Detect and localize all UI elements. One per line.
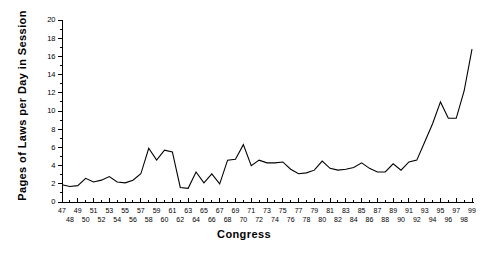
x-tick-label: 48 (66, 216, 74, 223)
x-tick-label: 82 (334, 216, 342, 223)
x-tick-label: 67 (216, 207, 224, 214)
y-axis-tick-labels: 02468101214161820 (47, 15, 55, 206)
x-tick-label: 58 (145, 216, 153, 223)
x-tick-label: 60 (161, 216, 169, 223)
x-tick-label: 95 (437, 207, 445, 214)
y-tick-label: 10 (47, 106, 55, 115)
chart-container: 02468101214161820 4749515355575961636567… (0, 0, 488, 255)
x-tick-label: 66 (208, 216, 216, 223)
y-axis-title: Pages of Laws per Day in Session (11, 0, 33, 213)
y-tick-label: 12 (47, 88, 55, 97)
x-axis-tick-labels: 4749515355575961636567697173757779818385… (58, 207, 476, 223)
x-tick-label: 71 (247, 207, 255, 214)
y-tick-label: 18 (47, 34, 55, 43)
x-tick-label: 92 (413, 216, 421, 223)
x-tick-label: 50 (82, 216, 90, 223)
x-tick-label: 90 (397, 216, 405, 223)
y-tick-label: 4 (51, 161, 55, 170)
x-tick-label: 97 (452, 207, 460, 214)
x-tick-label: 69 (232, 207, 240, 214)
x-tick-label: 54 (113, 216, 121, 223)
x-tick-label: 52 (98, 216, 106, 223)
x-tick-label: 74 (271, 216, 279, 223)
x-tick-label: 87 (373, 207, 381, 214)
x-tick-label: 55 (121, 207, 129, 214)
y-tick-label: 16 (47, 52, 55, 61)
x-tick-label: 79 (310, 207, 318, 214)
x-tick-label: 85 (358, 207, 366, 214)
x-tick-label: 88 (381, 216, 389, 223)
x-tick-label: 53 (105, 207, 113, 214)
x-tick-label: 47 (58, 207, 66, 214)
x-tick-label: 64 (192, 216, 200, 223)
line-chart-plot: 02468101214161820 4749515355575961636567… (0, 0, 488, 255)
x-tick-label: 59 (153, 207, 161, 214)
y-tick-label: 8 (51, 125, 55, 134)
x-tick-label: 70 (239, 216, 247, 223)
y-tick-label: 0 (51, 197, 55, 206)
x-tick-label: 49 (74, 207, 82, 214)
x-tick-label: 51 (90, 207, 98, 214)
x-tick-label: 72 (255, 216, 263, 223)
x-tick-label: 86 (366, 216, 374, 223)
y-tick-label: 2 (51, 179, 55, 188)
x-tick-label: 61 (168, 207, 176, 214)
chart-axes (62, 20, 474, 202)
x-tick-label: 62 (176, 216, 184, 223)
x-tick-label: 78 (303, 216, 311, 223)
x-tick-label: 84 (350, 216, 358, 223)
x-tick-label: 56 (129, 216, 137, 223)
chart-tick-marks (58, 20, 472, 202)
x-tick-label: 81 (326, 207, 334, 214)
x-tick-label: 93 (421, 207, 429, 214)
x-tick-label: 96 (444, 216, 452, 223)
x-tick-label: 99 (468, 207, 476, 214)
x-tick-label: 73 (263, 207, 271, 214)
x-tick-label: 76 (287, 216, 295, 223)
y-tick-label: 20 (47, 15, 55, 24)
x-tick-label: 57 (137, 207, 145, 214)
x-tick-label: 77 (295, 207, 303, 214)
x-tick-label: 89 (389, 207, 397, 214)
x-tick-label: 94 (429, 216, 437, 223)
data-series-line (62, 49, 472, 188)
x-axis-title: Congress (0, 228, 488, 240)
x-tick-label: 91 (405, 207, 413, 214)
y-tick-label: 6 (51, 143, 55, 152)
x-tick-label: 65 (200, 207, 208, 214)
x-tick-label: 75 (279, 207, 287, 214)
x-tick-label: 68 (224, 216, 232, 223)
x-tick-label: 83 (342, 207, 350, 214)
x-tick-label: 63 (184, 207, 192, 214)
y-tick-label: 14 (47, 70, 55, 79)
x-tick-label: 98 (460, 216, 468, 223)
x-tick-label: 80 (318, 216, 326, 223)
